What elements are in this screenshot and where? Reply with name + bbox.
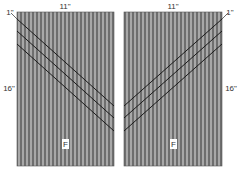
left-panel: F 11" 16" 1" xyxy=(3,2,114,166)
right-width-label: 11" xyxy=(167,2,178,11)
right-offset-label: 1" xyxy=(226,8,233,17)
diagram-canvas: F 11" 16" 1" F 11" 16" 1" xyxy=(0,0,240,175)
right-fabric-label: F xyxy=(171,140,176,149)
left-width-label: 11" xyxy=(59,2,70,11)
right-panel: F 11" 16" 1" xyxy=(124,2,237,166)
left-height-label: 16" xyxy=(3,84,15,93)
left-fabric-label: F xyxy=(63,140,68,149)
left-offset-label: 1" xyxy=(6,8,13,17)
right-height-label: 16" xyxy=(225,84,237,93)
